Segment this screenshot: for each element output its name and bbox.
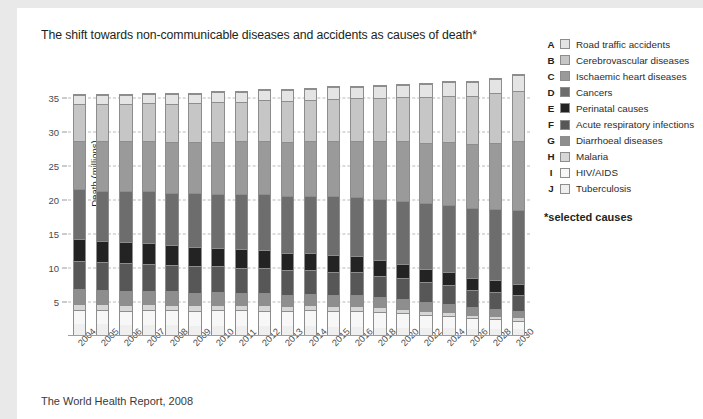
bar-segment [120,104,132,142]
bar-segment [166,193,178,246]
bar-segment [490,309,502,316]
bar-segment [420,269,432,283]
bar-2024[interactable] [442,81,456,336]
legend-swatch-icon [560,120,570,130]
bar-segment [189,193,201,246]
bar-2030[interactable] [512,74,526,336]
bar-segment [236,102,248,142]
bar-segment [282,142,294,196]
legend-item-h[interactable]: HMalaria [544,149,703,165]
legend-swatch-icon [560,184,570,194]
legend-key: H [544,151,558,162]
bar-segment [513,295,525,311]
bar-segment [97,290,109,304]
bar-segment [189,94,201,103]
bar-2004[interactable] [73,94,87,336]
bar-segment [143,310,155,325]
y-tick-label: 5 [54,297,59,308]
bar-2013[interactable] [281,89,295,336]
bar-segment [328,272,340,296]
bar-segment [351,256,363,272]
bar-segment [259,194,271,250]
legend-item-d[interactable]: DCancers [544,84,703,100]
bar-segment [328,255,340,272]
bar-segment [97,324,109,335]
y-tick-label: 35 [48,93,59,104]
bar-segment [143,94,155,103]
bar-segment [282,270,294,294]
bar-segment [351,141,363,197]
legend-item-b[interactable]: BCerebrovascular diseases [544,52,703,68]
bar-2007[interactable] [142,93,156,336]
bar-segment [189,103,201,142]
bar-segment [212,326,224,335]
bar-2028[interactable] [489,78,503,336]
bar-segment [374,276,386,298]
bar-segment [328,196,340,255]
bar-segment [374,312,386,328]
bar-segment [467,144,479,208]
bar-segment [420,328,432,335]
bar-segment [397,278,409,299]
bar-2018[interactable] [373,85,387,336]
bar-2009[interactable] [188,93,202,336]
bar-segment [420,84,432,97]
bar-segment [120,325,132,335]
bar-segment [97,310,109,324]
bar-2008[interactable] [165,93,179,336]
y-tick-mark [62,132,67,133]
legend-item-j[interactable]: JTuberculosis [544,181,703,197]
bar-segment [282,90,294,101]
bar-segment [351,295,363,306]
legend-item-g[interactable]: GDiarrhoeal diseases [544,133,703,149]
bar-segment [397,85,409,97]
bar-segment [351,87,363,98]
legend-item-a[interactable]: ARoad traffic accidents [544,36,703,52]
bar-segment [328,99,340,141]
plot-area: Death (millions) 5101520253035 200420052… [68,64,530,336]
bar-2020[interactable] [396,84,410,336]
bar-segment [74,289,86,304]
legend-label: Cerebrovascular diseases [576,55,689,66]
bar-segment [282,295,294,306]
bar-2012[interactable] [258,89,272,336]
bar-segment [374,98,386,141]
bar-segment [282,196,294,253]
bar-segment [166,245,178,265]
bar-series-group: 2004200520062007200820092010201120122013… [68,64,530,336]
bar-2005[interactable] [96,94,110,336]
bar-segment [120,291,132,305]
bar-segment [490,79,502,94]
y-tick-label: 25 [48,161,59,172]
bar-segment [467,307,479,314]
bar-segment [166,291,178,304]
y-tick-mark [62,98,67,99]
legend-label: Diarrhoeal diseases [576,135,663,146]
bar-2014[interactable] [304,88,318,336]
bar-segment [467,318,479,329]
bar-segment [97,241,109,262]
legend-item-i[interactable]: IHIV/AIDS [544,165,703,181]
bar-2006[interactable] [119,94,133,336]
legend-item-e[interactable]: EPerinatal causes [544,100,703,116]
bar-2015[interactable] [327,86,341,336]
bar-segment [351,311,363,327]
legend-swatch-icon [560,39,570,49]
bar-2010[interactable] [211,91,225,336]
bar-2016[interactable] [350,86,364,336]
bar-segment [443,304,455,312]
bar-segment [328,295,340,306]
bar-2022[interactable] [419,83,433,336]
bar-segment [212,102,224,142]
legend-item-c[interactable]: CIschaemic heart diseases [544,68,703,84]
screenshot-root: The shift towards non-communicable disea… [0,0,703,419]
bar-segment [351,197,363,256]
legend-key: G [544,135,558,146]
legend-swatch-icon [560,55,570,65]
bar-2026[interactable] [466,81,480,336]
bar-segment [443,272,455,285]
bar-2011[interactable] [235,91,249,336]
legend-item-f[interactable]: FAcute respiratory infections [544,116,703,132]
bar-segment [259,326,271,335]
bar-segment [443,96,455,143]
